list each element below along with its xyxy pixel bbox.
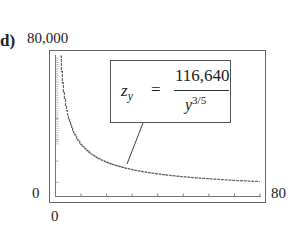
callout-line — [127, 123, 143, 164]
equation-numerator: 116,640 — [175, 66, 230, 86]
equation-denominator: y3/5 — [185, 94, 206, 114]
equation-label-box: zy = 116,640 y3/5 — [110, 60, 231, 123]
equation-equals: = — [151, 80, 161, 100]
fraction-bar — [174, 90, 229, 91]
equation-lhs: zy — [121, 81, 133, 104]
